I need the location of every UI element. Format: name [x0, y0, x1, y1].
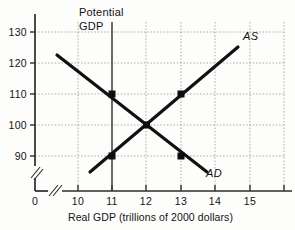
ad-curve-label: AD: [206, 167, 222, 179]
marker-ad-11-110: [109, 91, 116, 98]
as-curve-label: AS: [243, 30, 258, 42]
y-tick-label-120: 120: [2, 57, 27, 69]
economics-ad-as-chart: 130 120 110 100 90 0 10 11 12 13 14 15 P…: [0, 0, 295, 230]
x-axis-break-icon: [49, 185, 62, 196]
x-tick-label-13: 13: [171, 195, 191, 207]
x-tick-label-15: 15: [240, 195, 260, 207]
x-tick-label-14: 14: [205, 195, 225, 207]
marker-equilibrium-12-100: [143, 122, 150, 129]
y-tick-label-110: 110: [2, 88, 27, 100]
y-tick-label-90: 90: [2, 150, 27, 162]
x-tick-label-10: 10: [68, 195, 88, 207]
marker-ad-13-90: [178, 153, 185, 160]
y-tick-label-100: 100: [2, 119, 27, 131]
x-tick-label-11: 11: [102, 195, 122, 207]
potential-gdp-label-line2: GDP: [79, 20, 103, 33]
vertical-gridlines: [78, 22, 284, 190]
x-tick-label-12: 12: [136, 195, 156, 207]
potential-gdp-label-line1: Potential: [79, 6, 124, 19]
y-tick-label-130: 130: [2, 26, 27, 38]
marker-as-11-90: [109, 153, 116, 160]
x-axis-ticks: [78, 185, 284, 191]
marker-as-13-110: [178, 91, 185, 98]
x-axis-title: Real GDP (trillions of 2000 dollars): [68, 211, 233, 223]
x-tick-label-0: 0: [25, 195, 45, 207]
y-axis-break-icon: [31, 167, 43, 180]
